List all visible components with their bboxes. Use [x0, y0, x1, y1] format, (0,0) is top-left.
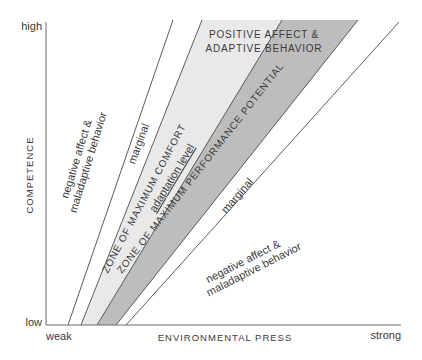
x-weak-label: weak [45, 330, 72, 342]
x-strong-label: strong [370, 329, 401, 341]
upper-left-negative-label: negative affect & maladaptive behavior [55, 107, 109, 214]
press-competence-diagram: high low weak strong COMPETENCE ENVIRONM… [0, 0, 422, 360]
y-low-label: low [25, 316, 42, 328]
y-high-label: high [21, 20, 42, 32]
lower-right-negative-label: negative affect & maladaptive behavior [199, 229, 303, 298]
x-axis-title: ENVIRONMENTAL PRESS [158, 332, 293, 343]
positive-affect-line1: POSITIVE AFFECT & [209, 29, 319, 40]
positive-affect-line2: ADAPTIVE BEHAVIOR [206, 43, 323, 54]
y-axis-title: COMPETENCE [24, 136, 35, 213]
